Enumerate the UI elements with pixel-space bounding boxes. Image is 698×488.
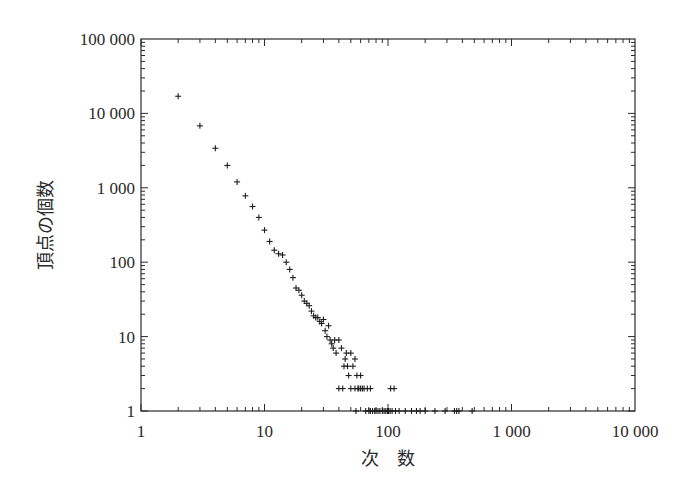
plus-marker — [242, 193, 248, 199]
y-tick-label: 100 — [110, 253, 136, 272]
y-axis-title: 頂点の個数 — [35, 180, 56, 270]
plus-marker — [280, 252, 286, 258]
x-tick-label: 100 — [375, 422, 401, 441]
plus-marker — [432, 408, 438, 414]
x-tick-label: 1 — [137, 422, 146, 441]
x-tick-label: 10 000 — [612, 422, 659, 441]
plus-marker — [402, 408, 408, 414]
plus-marker — [348, 350, 354, 356]
plus-marker — [367, 386, 373, 392]
plus-marker — [326, 323, 332, 329]
x-tick-labels: 1101001 00010 000 — [137, 422, 659, 441]
plus-marker — [422, 408, 428, 414]
x-axis-title: 次 数 — [361, 448, 415, 469]
plus-marker — [276, 251, 282, 257]
y-tick-label: 10 — [118, 328, 135, 347]
plus-marker — [250, 204, 256, 210]
x-tick-label: 10 — [256, 422, 273, 441]
plus-marker — [342, 356, 348, 362]
plus-marker — [234, 179, 240, 185]
plus-marker — [224, 162, 230, 168]
plus-marker — [336, 337, 342, 343]
plus-marker — [290, 275, 296, 281]
plus-marker — [271, 247, 277, 253]
plus-marker — [340, 386, 346, 392]
plus-marker — [391, 386, 397, 392]
plus-marker — [299, 292, 305, 298]
plus-marker — [283, 259, 289, 265]
plus-marker — [287, 266, 293, 272]
plus-marker — [175, 93, 181, 99]
plus-marker — [352, 356, 358, 362]
y-tick-label: 100 000 — [80, 30, 135, 49]
plus-marker — [353, 408, 359, 414]
plus-marker — [267, 238, 273, 244]
plus-marker — [197, 123, 203, 129]
y-tick-label: 1 000 — [97, 179, 135, 198]
plus-marker — [256, 214, 262, 220]
degree-distribution-chart: 1101001 00010 000 1101001 00010 000100 0… — [0, 0, 698, 488]
plot-frame — [141, 39, 635, 411]
plus-marker — [330, 345, 336, 351]
data-points — [175, 93, 475, 414]
plus-marker — [333, 350, 339, 356]
y-tick-labels: 1101001 00010 000100 000 — [80, 30, 135, 421]
plus-marker — [322, 328, 328, 334]
plus-marker — [212, 145, 218, 151]
plus-marker — [358, 373, 364, 379]
plus-marker — [338, 345, 344, 351]
plus-marker — [262, 227, 268, 233]
axis-ticks — [141, 39, 635, 411]
plus-marker — [396, 408, 402, 414]
plus-marker — [324, 334, 330, 340]
plus-marker — [345, 363, 351, 369]
x-tick-label: 1 000 — [492, 422, 530, 441]
y-tick-label: 10 000 — [88, 104, 135, 123]
y-tick-label: 1 — [127, 402, 136, 421]
plus-marker — [346, 373, 352, 379]
plus-marker — [350, 363, 356, 369]
